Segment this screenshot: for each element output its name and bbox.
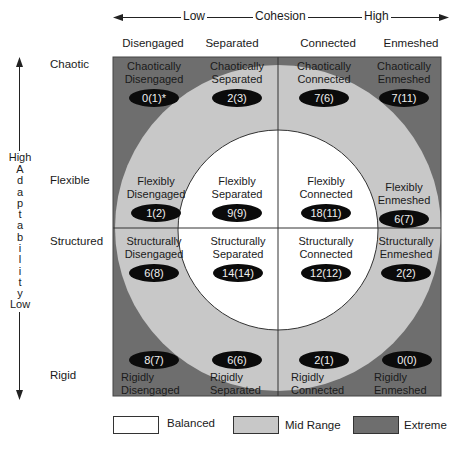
count-badge: 2(3) — [212, 89, 262, 107]
legend-swatch-mid-range — [233, 416, 279, 434]
count-badge: 6(8) — [129, 264, 179, 282]
cell-flexibly-connected: FlexiblyConnected 18(11) — [285, 175, 367, 222]
cell-structurally-disengaged: StructurallyDisengaged 6(8) — [113, 235, 195, 282]
legend-swatch-extreme — [353, 416, 399, 434]
count-badge: 1(2) — [131, 204, 181, 222]
legend-label-balanced: Balanced — [167, 417, 215, 429]
cell-rigidly-connected: 2(1) RigidlyConnected — [283, 351, 365, 397]
cell-chaotically-separated: ChaoticallySeparated 2(3) — [196, 60, 278, 107]
cell-chaotically-disengaged: ChaoticallyDisengaged 0(1)* — [113, 60, 195, 107]
count-badge: 7(11) — [379, 89, 429, 107]
cell-rigidly-separated: 6(6) RigidlySeparated — [196, 351, 278, 397]
cell-flexibly-disengaged: FlexiblyDisengaged 1(2) — [115, 175, 197, 222]
cell-chaotically-enmeshed: ChaoticallyEnmeshed 7(11) — [363, 60, 445, 107]
cell-structurally-enmeshed: StructurallyEnmeshed 2(2) — [365, 235, 447, 282]
cell-rigidly-enmeshed: 0(0) RigidlyEnmeshed — [366, 351, 448, 397]
count-badge: 6(6) — [212, 351, 262, 369]
count-badge: 8(7) — [129, 351, 179, 369]
legend-label-extreme: Extreme — [404, 419, 447, 431]
count-badge: 2(2) — [381, 264, 431, 282]
count-badge: 2(1) — [299, 351, 349, 369]
count-badge: 9(9) — [212, 204, 262, 222]
legend-swatch-balanced — [113, 416, 159, 434]
legend-label-mid-range: Mid Range — [285, 419, 341, 431]
count-badge: 14(14) — [213, 264, 263, 282]
cell-structurally-connected: StructurallyConnected 12(12) — [285, 235, 367, 282]
cell-chaotically-connected: ChaoticallyConnected 7(6) — [283, 60, 365, 107]
count-badge: 0(1)* — [129, 89, 179, 107]
count-badge: 12(12) — [301, 264, 351, 282]
count-badge: 0(0) — [382, 351, 432, 369]
cell-flexibly-enmeshed: FlexiblyEnmeshed 6(7) — [363, 181, 445, 228]
count-badge: 7(6) — [299, 89, 349, 107]
count-badge: 6(7) — [379, 210, 429, 228]
cell-rigidly-disengaged: 8(7) RigidlyDisengaged — [113, 351, 195, 397]
cell-structurally-separated: StructurallySeparated 14(14) — [197, 235, 279, 282]
count-badge: 18(11) — [301, 204, 351, 222]
cell-flexibly-separated: FlexiblySeparated 9(9) — [196, 175, 278, 222]
